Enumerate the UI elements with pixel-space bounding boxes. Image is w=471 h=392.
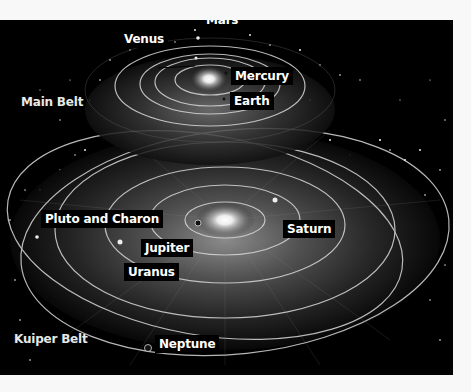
label-kuiper-belt: Kuiper Belt	[10, 330, 92, 348]
label-venus: Venus	[120, 30, 168, 48]
neptune-dot	[145, 345, 152, 352]
sun-outer	[195, 202, 255, 238]
jupiter-dot	[195, 220, 201, 226]
label-earth: Earth	[230, 92, 274, 110]
earth-dot	[223, 98, 226, 101]
orbit-illustration	[0, 20, 453, 375]
label-pluto-charon: Pluto and Charon	[41, 210, 163, 228]
mercury-dot	[225, 72, 228, 75]
label-neptune: Neptune	[155, 335, 219, 353]
uranus-dot	[118, 240, 123, 245]
label-mercury: Mercury	[231, 67, 293, 85]
venus-dot	[195, 57, 198, 60]
label-mars: Mars	[202, 20, 242, 29]
solar-system-diagram: Mars Venus Mercury Earth Main Belt Pluto…	[0, 20, 453, 375]
label-uranus: Uranus	[124, 263, 179, 281]
inner-system	[85, 36, 335, 165]
sun-inner	[189, 65, 229, 93]
mars-dot	[196, 36, 200, 40]
label-main-belt: Main Belt	[17, 93, 87, 111]
pluto-dot	[35, 235, 39, 239]
label-saturn: Saturn	[283, 220, 335, 238]
label-jupiter: Jupiter	[141, 239, 193, 257]
saturn-dot	[273, 198, 278, 203]
